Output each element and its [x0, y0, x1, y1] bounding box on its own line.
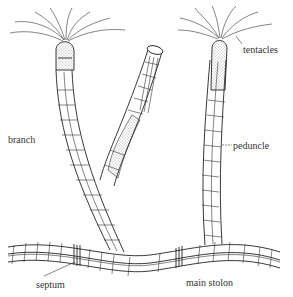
main-stolon: [8, 242, 280, 276]
middle-branch: [100, 44, 164, 186]
left-hydranth: [10, 8, 125, 70]
stolon-rings: [12, 242, 272, 276]
label-septum: septum: [36, 280, 65, 290]
tentacles-left: [10, 8, 125, 41]
label-tentacles: tentacles: [243, 45, 278, 55]
hydroid-colony-diagram: tentacles branch peduncle septum main st…: [0, 0, 293, 297]
tentacles-right: [178, 6, 272, 39]
label-main-stolon: main stolon: [186, 278, 233, 288]
label-peduncle: peduncle: [233, 141, 269, 151]
label-branch: branch: [8, 135, 35, 145]
septum-marks: [74, 244, 182, 268]
